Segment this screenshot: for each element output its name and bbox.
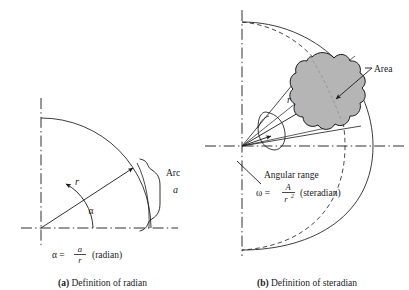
figure-root: r α Arc a α = a r (radian) (a) Definitio… xyxy=(0,0,409,290)
formula-numerator-b: A xyxy=(284,182,291,192)
formula-steradian: ω = A r 2 (steradian) xyxy=(256,182,341,204)
angle-label-alpha: α xyxy=(89,206,94,216)
quarter-circle-arc xyxy=(41,118,151,228)
panel-b-steradian-diagram: Area r Angular range ω = A r 2 (steradia… xyxy=(205,0,409,290)
radius-line-with-arrow xyxy=(41,168,133,228)
formula-numerator: a xyxy=(78,244,82,254)
panel-b-caption-text: Definition of steradian xyxy=(269,278,357,288)
formula-lhs: α = xyxy=(52,250,65,260)
formula-denominator-exponent: 2 xyxy=(291,193,294,199)
panel-a-radian-diagram: r α Arc a α = a r (radian) xyxy=(0,0,205,290)
panel-a-caption-text: Definition of radian xyxy=(69,278,147,288)
formula-denominator-b: r xyxy=(284,194,288,204)
formula-radian: α = a r (radian) xyxy=(52,244,122,265)
formula-unit: (radian) xyxy=(92,250,122,261)
area-label: Area xyxy=(374,64,393,74)
formula-lhs-b: ω = xyxy=(256,188,270,198)
sphere-outline-solid xyxy=(242,22,373,250)
arc-word-label: Arc xyxy=(166,168,180,178)
formula-unit-b: (steradian) xyxy=(300,188,341,199)
cone-cap-ellipse xyxy=(258,112,285,150)
panel-a-caption: (a) Definition of radian xyxy=(0,272,205,290)
arc-symbol-label: a xyxy=(173,184,178,195)
area-patch-blob xyxy=(290,53,365,130)
arc-segment-a xyxy=(137,163,149,228)
panel-a-caption-marker: (a) xyxy=(58,278,69,288)
radius-label-b: r xyxy=(287,94,291,105)
panel-b-caption-marker: (b) xyxy=(257,278,269,288)
panel-b-caption: (b) Definition of steradian xyxy=(205,272,409,290)
radius-label-a: r xyxy=(75,176,79,187)
arc-brace xyxy=(140,159,160,231)
formula-denominator: r xyxy=(78,255,82,265)
angular-range-label: Angular range xyxy=(264,170,319,180)
angular-range-leader xyxy=(237,161,261,184)
